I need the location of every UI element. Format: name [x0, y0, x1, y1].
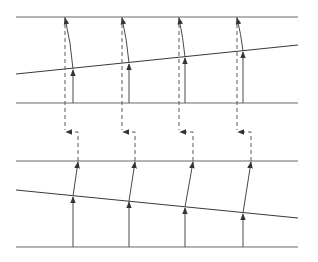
upper-refracted-ray-4-arrow-icon — [237, 18, 243, 51]
lower-refracted-ray-3-arrow-icon — [185, 162, 193, 207]
lower-refracted-ray-4-arrow-icon — [243, 162, 251, 213]
lower-slanted-interface — [16, 190, 298, 218]
lower-refracted-ray-2-arrow-icon — [129, 162, 135, 201]
refraction-diagram — [0, 0, 318, 262]
connector-2-arrow-icon — [123, 132, 135, 161]
upper-refracted-ray-3-arrow-icon — [179, 18, 185, 57]
upper-refracted-ray-1-arrow-icon — [65, 18, 73, 69]
upper-panel — [16, 17, 298, 103]
connector-3-arrow-icon — [180, 132, 193, 161]
connector-1-arrow-icon — [66, 132, 78, 161]
connector-4-arrow-icon — [238, 132, 251, 161]
dashed-connectors — [65, 17, 251, 161]
upper-refracted-ray-2-arrow-icon — [122, 18, 129, 63]
lower-refracted-ray-1-arrow-icon — [73, 162, 78, 196]
upper-slanted-interface — [16, 45, 298, 74]
lower-panel — [16, 161, 298, 247]
